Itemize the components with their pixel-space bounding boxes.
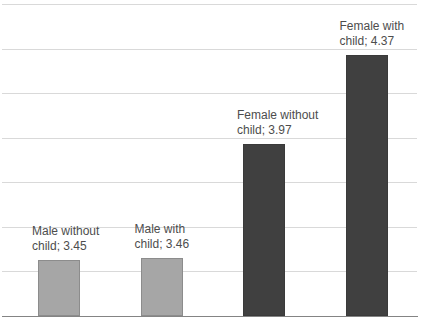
gridline [2, 4, 417, 5]
data-label-male-with-child: Male with child; 3.46 [135, 222, 190, 252]
data-label-line: Female without [237, 108, 318, 123]
data-label-line: Male without [32, 224, 99, 239]
bar-female-without-child [243, 144, 285, 316]
data-label-line: child; 3.97 [237, 123, 318, 138]
gridline [2, 49, 417, 50]
data-label-line: child; 3.45 [32, 239, 99, 254]
x-axis-line [2, 316, 418, 317]
data-label-female-without-child: Female without child; 3.97 [237, 108, 318, 138]
data-label-line: Male with [135, 222, 190, 237]
data-label-line: Female with [340, 19, 405, 34]
bar-chart: Male without child; 3.45 Male with child… [0, 0, 421, 323]
data-label-male-without-child: Male without child; 3.45 [32, 224, 99, 254]
bar-male-with-child [141, 258, 183, 316]
bar-male-without-child [38, 260, 80, 316]
data-label-female-with-child: Female with child; 4.37 [340, 19, 405, 49]
data-label-line: child; 3.46 [135, 237, 190, 252]
data-label-line: child; 4.37 [340, 34, 405, 49]
bar-female-with-child [346, 55, 388, 316]
